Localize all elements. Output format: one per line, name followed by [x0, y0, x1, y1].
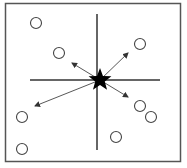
circle-point-icon	[135, 39, 146, 50]
circle-point-icon	[111, 132, 122, 143]
circle-point-icon	[31, 18, 42, 29]
star-icon	[89, 68, 112, 90]
circle-point-icon	[146, 112, 157, 123]
circle-point-icon	[17, 112, 28, 123]
diagram-svg	[0, 0, 187, 168]
arrow-1	[100, 53, 128, 80]
arrow-2	[35, 80, 100, 106]
circle-point-icon	[135, 101, 146, 112]
circle-point-icon	[54, 48, 65, 59]
circle-point-icon	[17, 144, 28, 155]
points-group	[17, 18, 157, 155]
diagram-canvas	[0, 0, 187, 168]
